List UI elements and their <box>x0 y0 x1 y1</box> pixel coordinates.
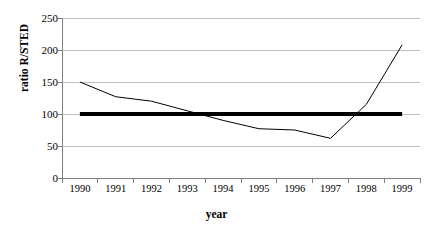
x-tick-label: 1993 <box>169 183 205 194</box>
data-series-line <box>80 45 402 138</box>
x-tick-label: 1990 <box>62 183 98 194</box>
x-tick-label: 1998 <box>348 183 384 194</box>
chart-container: ratio R/STED 050100150200250 19901991199… <box>0 0 433 238</box>
x-tick-label: 1995 <box>241 183 277 194</box>
x-tick-label: 1991 <box>98 183 134 194</box>
x-tick-label: 1996 <box>277 183 313 194</box>
x-tick-label: 1999 <box>384 183 420 194</box>
x-tick-label: 1997 <box>313 183 349 194</box>
plot-area <box>0 0 433 238</box>
x-tick-label: 1992 <box>134 183 170 194</box>
x-axis-title: year <box>0 208 433 220</box>
x-tick-label: 1994 <box>205 183 241 194</box>
